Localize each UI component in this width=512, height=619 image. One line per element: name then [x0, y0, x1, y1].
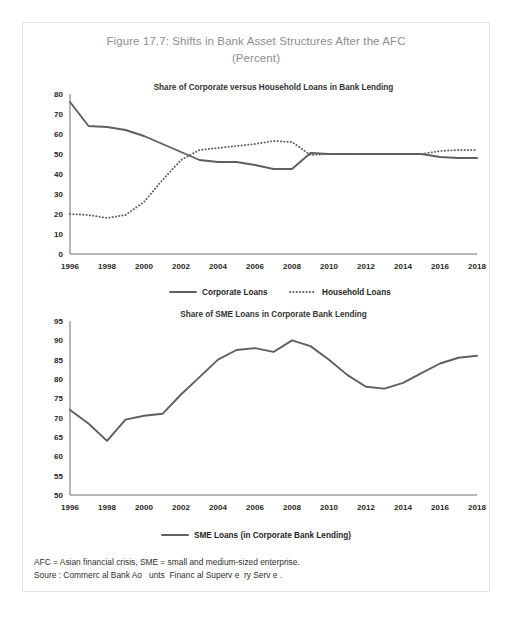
- x-axis-tick-label: 2004: [209, 503, 227, 512]
- y-axis-tick-label: 80: [54, 90, 63, 99]
- x-axis-tick-label: 2004: [209, 262, 227, 271]
- x-axis-tick-label: 2014: [394, 262, 412, 271]
- x-axis-tick-label: 2014: [394, 503, 412, 512]
- y-axis-tick-label: 75: [54, 394, 63, 403]
- y-axis-tick-label: 60: [54, 452, 63, 461]
- y-axis-tick-label: 60: [54, 130, 63, 139]
- x-axis-tick-label: 2006: [246, 262, 264, 271]
- x-axis-tick-label: 2012: [357, 503, 375, 512]
- figure-title-line1: Figure 17.7: Shifts in Bank Asset Struct…: [22, 33, 490, 50]
- notes-line-source: Soure : Commerc al Bank Ao unts Financ a…: [34, 569, 484, 582]
- y-axis-tick-label: 50: [54, 150, 63, 159]
- series-line-sme-loans-in-corporate-bank-lending: [70, 340, 477, 441]
- x-axis-tick-label: 2000: [135, 262, 153, 271]
- y-axis-tick-label: 80: [54, 375, 63, 384]
- chart-svg-corporate-household: Share of Corporate versus Household Loan…: [22, 76, 490, 308]
- y-axis-tick-label: 55: [54, 472, 63, 481]
- chart-axes: [70, 94, 477, 254]
- x-axis-tick-label: 2002: [172, 503, 190, 512]
- x-axis-tick-label: 2016: [431, 262, 449, 271]
- x-axis-tick-label: 2012: [357, 262, 375, 271]
- figure-title: Figure 17.7: Shifts in Bank Asset Struct…: [22, 33, 490, 67]
- y-axis-tick-label: 85: [54, 356, 63, 365]
- figure-notes: AFC = Asian financial crisis, SME = smal…: [34, 556, 484, 581]
- chart-panel-corporate-household: Share of Corporate versus Household Loan…: [22, 76, 490, 308]
- x-axis-tick-label: 2018: [468, 262, 486, 271]
- y-axis-tick-label: 20: [54, 210, 63, 219]
- x-axis-tick-label: 2002: [172, 262, 190, 271]
- notes-line-abbreviations: AFC = Asian financial crisis, SME = smal…: [34, 556, 484, 569]
- x-axis-tick-label: 1998: [98, 503, 116, 512]
- chart-subtitle: Share of Corporate versus Household Loan…: [154, 83, 394, 92]
- legend-label: Household Loans: [322, 288, 391, 297]
- series-line-household-loans: [70, 141, 477, 218]
- y-axis-tick-label: 95: [54, 317, 63, 326]
- y-axis-tick-label: 30: [54, 190, 63, 199]
- figure-page: Figure 17.7: Shifts in Bank Asset Struct…: [0, 0, 512, 619]
- chart-panel-sme: Share of SME Loans in Corporate Bank Len…: [22, 303, 490, 550]
- x-axis-tick-label: 2008: [283, 503, 301, 512]
- x-axis-tick-label: 1998: [98, 262, 116, 271]
- y-axis-tick-label: 10: [54, 230, 63, 239]
- y-axis-tick-label: 65: [54, 433, 63, 442]
- y-axis-tick-label: 90: [54, 336, 63, 345]
- x-axis-tick-label: 1996: [61, 262, 79, 271]
- y-axis-tick-label: 0: [59, 250, 64, 259]
- chart-axes: [70, 321, 477, 495]
- y-axis-tick-label: 50: [54, 491, 63, 500]
- x-axis-tick-label: 2018: [468, 503, 486, 512]
- legend-label: Corporate Loans: [202, 288, 268, 297]
- figure-title-line2: (Percent): [22, 50, 490, 67]
- x-axis-tick-label: 2010: [320, 503, 338, 512]
- y-axis-tick-label: 40: [54, 170, 63, 179]
- chart-subtitle: Share of SME Loans in Corporate Bank Len…: [180, 310, 367, 319]
- x-axis-tick-label: 2016: [431, 503, 449, 512]
- series-line-corporate-loans: [70, 102, 477, 169]
- x-axis-tick-label: 1996: [61, 503, 79, 512]
- x-axis-tick-label: 2008: [283, 262, 301, 271]
- x-axis-tick-label: 2006: [246, 503, 264, 512]
- legend-label: SME Loans (in Corporate Bank Lending): [194, 531, 351, 540]
- chart-svg-sme: Share of SME Loans in Corporate Bank Len…: [22, 303, 490, 550]
- y-axis-tick-label: 70: [54, 414, 63, 423]
- x-axis-tick-label: 2010: [320, 262, 338, 271]
- y-axis-tick-label: 70: [54, 110, 63, 119]
- x-axis-tick-label: 2000: [135, 503, 153, 512]
